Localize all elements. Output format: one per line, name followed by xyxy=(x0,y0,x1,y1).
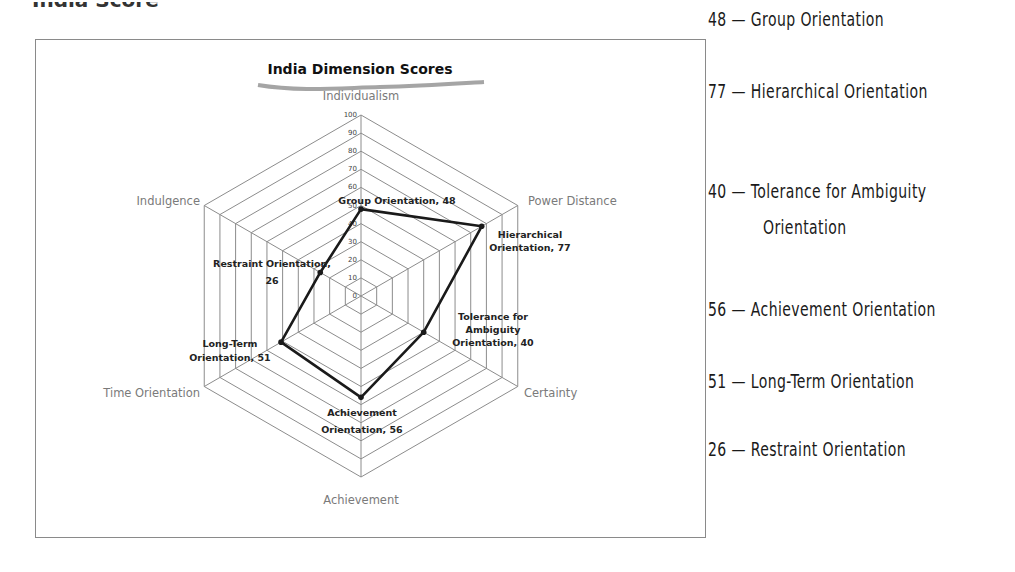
score-dash: — xyxy=(732,298,746,320)
tick-label: 90 xyxy=(348,129,357,137)
score-label-continued: Orientation xyxy=(708,216,927,238)
axis-label-certainty: Certainty xyxy=(524,386,577,400)
tick-label: 70 xyxy=(348,165,357,173)
tick-label: 20 xyxy=(348,256,357,264)
score-list-item: 26 — Restraint Orientation xyxy=(708,438,906,460)
series-marker xyxy=(358,395,364,401)
tick-label: 80 xyxy=(348,147,357,155)
axis-label-individualism: Individualism xyxy=(323,89,399,103)
score-list-item: 40 — Tolerance for Ambiguity Orientation xyxy=(708,180,927,238)
score-value: 40 xyxy=(708,180,727,202)
series-marker xyxy=(358,206,364,212)
data-label-tolerance-3: Orientation, 40 xyxy=(452,337,534,348)
score-list-item: 77 — Hierarchical Orientation xyxy=(708,80,928,102)
data-label-hierarchical-1: Hierarchical xyxy=(498,229,562,240)
score-value: 56 xyxy=(708,298,727,320)
data-label-restraint-2: 26 xyxy=(265,275,279,286)
data-label-achievement-2: Orientation, 56 xyxy=(321,424,403,435)
score-value: 48 xyxy=(708,8,727,30)
data-label-hierarchical-2: Orientation, 77 xyxy=(489,242,570,253)
score-label: Achievement Orientation xyxy=(751,298,936,320)
data-label-group-orientation: Group Orientation, 48 xyxy=(338,195,456,206)
score-value: 77 xyxy=(708,80,727,102)
tick-label: 0 xyxy=(353,292,357,300)
tick-label: 60 xyxy=(348,183,357,191)
data-label-long-term-2: Orientation, 51 xyxy=(189,352,270,363)
series-india-polygon xyxy=(281,209,482,397)
series-marker xyxy=(421,329,427,335)
score-label: Tolerance for Ambiguity xyxy=(751,180,927,202)
series-marker xyxy=(317,270,323,276)
data-label-restraint-1: Restraint Orientation, xyxy=(213,258,331,269)
score-list-item: 51 — Long-Term Orientation xyxy=(708,370,914,392)
score-dash: — xyxy=(732,370,746,392)
score-list-item: 48 — Group Orientation xyxy=(708,8,884,30)
tick-label: 30 xyxy=(348,238,357,246)
axis-label-achievement: Achievement xyxy=(323,493,399,507)
score-dash: — xyxy=(732,80,746,102)
chart-title: India Dimension Scores xyxy=(267,61,452,77)
data-label-achievement-1: Achievement xyxy=(327,407,397,418)
axis-label-indulgence: Indulgence xyxy=(136,194,200,208)
score-label: Long-Term Orientation xyxy=(751,370,914,392)
data-label-tolerance-2: Ambiguity xyxy=(466,324,522,335)
score-dash: — xyxy=(732,180,746,202)
score-list-item: 56 — Achievement Orientation xyxy=(708,298,936,320)
axis-label-time-orientation: Time Orientation xyxy=(102,386,200,400)
score-value: 51 xyxy=(708,370,727,392)
tick-label: 100 xyxy=(344,111,357,119)
series-marker xyxy=(479,224,485,230)
axis-label-power-distance: Power Distance xyxy=(528,194,617,208)
score-dash: — xyxy=(732,8,746,30)
score-dash: — xyxy=(732,438,746,460)
score-label: Hierarchical Orientation xyxy=(751,80,928,102)
data-label-long-term-1: Long-Term xyxy=(203,338,258,349)
data-label-tolerance-1: Tolerance for xyxy=(458,311,528,322)
score-label: Group Orientation xyxy=(751,8,884,30)
score-value: 26 xyxy=(708,438,727,460)
tick-label: 10 xyxy=(348,274,357,282)
series-marker xyxy=(278,339,284,345)
score-label: Restraint Orientation xyxy=(751,438,906,460)
title-underline-decoration xyxy=(258,82,484,89)
